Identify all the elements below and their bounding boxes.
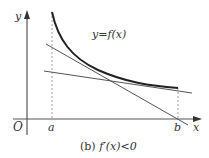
secant-line <box>44 71 192 93</box>
function-curve <box>52 12 178 88</box>
tangent-line <box>46 44 188 125</box>
caption-prefix: (b) <box>80 140 99 153</box>
caption-math: f′(x)<0 <box>98 140 137 153</box>
derivative-diagram: y O a b x y=f(x) (b) f′(x)<0 <box>0 0 209 158</box>
y-axis-arrow-icon <box>24 10 30 19</box>
curve-label: y=f(x) <box>91 28 126 41</box>
x-axis-label: x <box>193 121 200 134</box>
caption: (b) f′(x)<0 <box>80 140 137 153</box>
origin-label: O <box>13 120 23 134</box>
point-a-label: a <box>48 121 55 134</box>
y-axis-label: y <box>14 10 22 23</box>
point-b-label: b <box>174 121 181 134</box>
